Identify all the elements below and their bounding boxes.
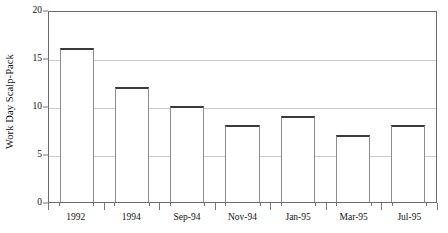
bar-slot bbox=[160, 12, 215, 202]
x-axis-tick-label: 1992 bbox=[48, 210, 104, 230]
x-axis-tick-label: Jul-95 bbox=[381, 210, 437, 230]
x-axis-minor-tick-mark bbox=[59, 203, 60, 206]
y-axis-tick-label: 15 bbox=[18, 54, 42, 64]
bar[interactable] bbox=[115, 87, 149, 202]
bar[interactable] bbox=[336, 135, 370, 202]
x-axis-minor-tick-mark bbox=[371, 203, 372, 206]
x-axis-tick-mark bbox=[326, 203, 327, 210]
x-axis-tick-mark bbox=[48, 203, 49, 210]
x-axis-tick-mark bbox=[104, 203, 105, 210]
x-axis-tick-label: Mar-95 bbox=[326, 210, 382, 230]
y-axis-tick-label: 20 bbox=[18, 6, 42, 16]
bar-chart: Work Day Scalp-Pack 05101520 19921994Sep… bbox=[0, 0, 448, 233]
bar-slot bbox=[49, 12, 104, 202]
x-axis-minor-tick-mark bbox=[114, 203, 115, 206]
x-axis-minor-tick-mark bbox=[426, 203, 427, 206]
x-axis-minor-tick-mark bbox=[93, 203, 94, 206]
y-axis-title: Work Day Scalp-Pack bbox=[0, 0, 18, 203]
x-axis-tick-mark bbox=[381, 203, 382, 210]
x-axis-tick-label: Sep-94 bbox=[159, 210, 215, 230]
bar-slot bbox=[325, 12, 380, 202]
x-axis-tick-label: 1994 bbox=[104, 210, 160, 230]
bar[interactable] bbox=[391, 125, 425, 202]
bar-slot bbox=[381, 12, 436, 202]
x-axis-tick-mark bbox=[437, 203, 438, 210]
y-axis-title-text: Work Day Scalp-Pack bbox=[4, 54, 15, 149]
x-axis-minor-tick-mark bbox=[149, 203, 150, 206]
x-axis-tick-label: Nov-94 bbox=[215, 210, 271, 230]
x-axis-tick-marks bbox=[48, 203, 437, 210]
bar[interactable] bbox=[60, 48, 94, 202]
bar[interactable] bbox=[170, 106, 204, 202]
bar-slot bbox=[215, 12, 270, 202]
y-axis-tick-label: 0 bbox=[18, 198, 42, 208]
plot-area bbox=[48, 11, 437, 203]
x-axis-tick-label: Jan-95 bbox=[270, 210, 326, 230]
x-axis-tick-labels: 19921994Sep-94Nov-94Jan-95Mar-95Jul-95 bbox=[48, 210, 437, 230]
x-axis-tick-mark bbox=[159, 203, 160, 210]
x-axis-minor-tick-mark bbox=[225, 203, 226, 206]
bar-slot bbox=[270, 12, 325, 202]
x-axis-minor-tick-mark bbox=[204, 203, 205, 206]
bar[interactable] bbox=[225, 125, 259, 202]
x-axis-minor-tick-mark bbox=[260, 203, 261, 206]
x-axis-tick-mark bbox=[270, 203, 271, 210]
x-axis-minor-tick-mark bbox=[281, 203, 282, 206]
y-axis-tick-labels: 05101520 bbox=[18, 0, 42, 203]
bar[interactable] bbox=[281, 116, 315, 202]
x-axis-tick-mark bbox=[215, 203, 216, 210]
bars-layer bbox=[49, 12, 436, 202]
x-axis-minor-tick-mark bbox=[170, 203, 171, 206]
bar-slot bbox=[104, 12, 159, 202]
x-axis-minor-tick-mark bbox=[392, 203, 393, 206]
x-axis-minor-tick-mark bbox=[336, 203, 337, 206]
x-axis-minor-tick-mark bbox=[315, 203, 316, 206]
y-axis-tick-label: 5 bbox=[18, 150, 42, 160]
y-axis-tick-label: 10 bbox=[18, 102, 42, 112]
